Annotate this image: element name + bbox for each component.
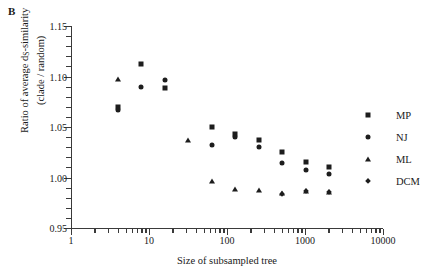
- y-axis-title-line1: Ratio of average dS-similarity: [19, 8, 30, 133]
- x-axis-minor-tick: [360, 229, 361, 233]
- data-point-nj: [303, 168, 308, 173]
- x-axis-tick-label: 10: [144, 235, 154, 246]
- x-axis-minor-tick: [219, 229, 220, 233]
- data-point-ml: [232, 186, 238, 191]
- x-axis-minor-tick: [288, 229, 289, 233]
- x-axis-minor-tick: [137, 229, 138, 233]
- data-point-ml: [256, 187, 262, 192]
- data-point-mp: [162, 85, 167, 90]
- x-axis-minor-tick: [264, 229, 265, 233]
- y-axis-minor-tick: [66, 218, 71, 219]
- x-axis-minor-tick: [342, 229, 343, 233]
- x-axis-tick-label: 10000: [371, 235, 396, 246]
- x-axis-minor-tick: [196, 229, 197, 233]
- x-axis-tick-label: 1000: [295, 235, 315, 246]
- y-axis-minor-tick: [66, 188, 71, 189]
- y-axis-minor-tick: [66, 208, 71, 209]
- x-axis-minor-tick: [297, 229, 298, 233]
- y-axis-minor-tick: [66, 117, 71, 118]
- x-axis-minor-tick: [223, 229, 224, 233]
- data-point-nj: [256, 145, 261, 150]
- data-point-nj: [162, 77, 167, 82]
- data-point-nj: [115, 107, 120, 112]
- x-axis-minor-tick: [371, 229, 372, 233]
- y-axis-tick-label: 1.15: [50, 21, 68, 32]
- legend-label: ML: [396, 154, 412, 165]
- y-axis-minor-tick: [66, 87, 71, 88]
- data-point-mp: [139, 62, 144, 67]
- y-axis-minor-tick: [66, 107, 71, 108]
- y-axis-minor-tick: [66, 66, 71, 67]
- data-point-mp: [327, 165, 332, 170]
- y-axis-minor-tick: [66, 198, 71, 199]
- y-axis-minor-tick: [66, 36, 71, 37]
- x-axis-minor-tick: [379, 229, 380, 233]
- x-axis-minor-tick: [293, 229, 294, 233]
- legend-marker-square-icon: [366, 113, 371, 118]
- y-axis-tick-label: 0.95: [50, 223, 68, 234]
- x-axis-tick-label: 100: [220, 235, 235, 246]
- x-axis-minor-tick: [250, 229, 251, 233]
- x-axis-title: Size of subsampled tree: [71, 255, 383, 266]
- x-axis-minor-tick: [352, 229, 353, 233]
- y-axis-minor-tick: [66, 46, 71, 47]
- x-axis-minor-tick: [126, 229, 127, 233]
- y-axis-title: Ratio of average dS-similarity (clade / …: [18, 0, 47, 180]
- y-axis-tick-label: 1.05: [50, 122, 68, 133]
- y-axis-minor-tick: [66, 56, 71, 57]
- x-axis-minor-tick: [328, 229, 329, 233]
- x-axis-minor-tick: [301, 229, 302, 233]
- x-axis-minor-tick: [210, 229, 211, 233]
- data-point-mp: [209, 125, 214, 130]
- y-axis-tick-label: 1.00: [50, 172, 68, 183]
- y-axis-title-line2: (clade / random): [33, 0, 46, 180]
- x-axis-minor-tick: [274, 229, 275, 233]
- data-point-mp: [303, 160, 308, 165]
- y-axis-minor-tick: [66, 157, 71, 158]
- x-axis-minor-tick: [204, 229, 205, 233]
- legend-marker-circle-icon: [366, 135, 371, 140]
- panel-letter: B: [8, 5, 16, 17]
- y-axis-minor-tick: [66, 167, 71, 168]
- x-axis-minor-tick: [215, 229, 216, 233]
- x-axis-minor-tick: [366, 229, 367, 233]
- figure-panel-b: B Ratio of average dS-similarity (clade …: [0, 0, 440, 277]
- x-axis-minor-tick: [282, 229, 283, 233]
- x-axis-tick-label: 1: [69, 235, 74, 246]
- data-point-nj: [327, 172, 332, 177]
- x-axis-minor-tick: [141, 229, 142, 233]
- x-axis-minor-tick: [186, 229, 187, 233]
- x-axis-minor-tick: [118, 229, 119, 233]
- data-point-ml: [185, 138, 191, 143]
- y-axis-tick-label: 1.10: [50, 71, 68, 82]
- data-point-nj: [209, 143, 214, 148]
- y-axis-title-subscript: S: [22, 51, 31, 55]
- legend-marker-triangle-icon: [365, 157, 371, 162]
- y-axis-minor-tick: [66, 97, 71, 98]
- data-point-nj: [139, 84, 144, 89]
- data-point-ml: [115, 76, 121, 81]
- data-point-nj: [280, 161, 285, 166]
- x-axis-minor-tick: [108, 229, 109, 233]
- plot-area: 0.951.001.051.101.15 110100100010000: [71, 26, 383, 228]
- data-point-mp: [280, 150, 285, 155]
- y-axis-minor-tick: [66, 147, 71, 148]
- x-axis-minor-tick: [172, 229, 173, 233]
- x-axis-minor-tick: [132, 229, 133, 233]
- data-point-nj: [233, 135, 238, 140]
- legend-label: MP: [396, 110, 411, 121]
- legend-label: DCM: [396, 176, 420, 187]
- y-axis-minor-tick: [66, 137, 71, 138]
- x-axis-minor-tick: [375, 229, 376, 233]
- x-axis-minor-tick: [94, 229, 95, 233]
- data-point-mp: [256, 138, 261, 143]
- x-axis-minor-tick: [145, 229, 146, 233]
- legend-label: NJ: [396, 132, 408, 143]
- y-axis-line: [71, 26, 72, 229]
- data-point-ml: [209, 178, 215, 183]
